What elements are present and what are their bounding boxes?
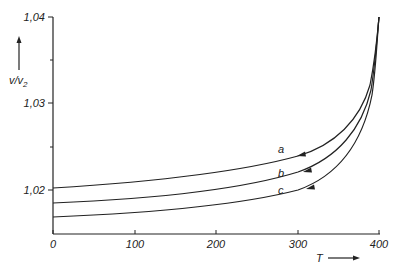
curve-label-b: b (278, 167, 284, 179)
chart: 1,04 1,03 1,02 0 100 200 300 400 v/v2 T … (0, 0, 396, 270)
curve-label-a: a (278, 143, 284, 155)
x-tick-label: 100 (126, 238, 145, 250)
y-axis-title: v/v2 (9, 74, 28, 89)
curve-a (53, 17, 379, 188)
x-tick-label: 200 (206, 238, 226, 250)
y-arrow-head-icon (17, 36, 22, 43)
x-tick-label: 0 (50, 238, 57, 250)
x-axis-title: T (316, 252, 324, 264)
curve-label-c: c (278, 184, 284, 196)
x-arrow-head-icon (353, 256, 360, 261)
y-tick-label: 1,04 (24, 11, 45, 23)
x-tick-label: 300 (289, 238, 308, 250)
curve-a-arrow-icon (297, 152, 306, 157)
curve-c (53, 17, 379, 217)
curve-b (53, 17, 379, 203)
y-tick-label: 1,02 (24, 184, 45, 196)
y-tick-label: 1,03 (24, 97, 46, 109)
x-tick-label: 400 (370, 238, 389, 250)
